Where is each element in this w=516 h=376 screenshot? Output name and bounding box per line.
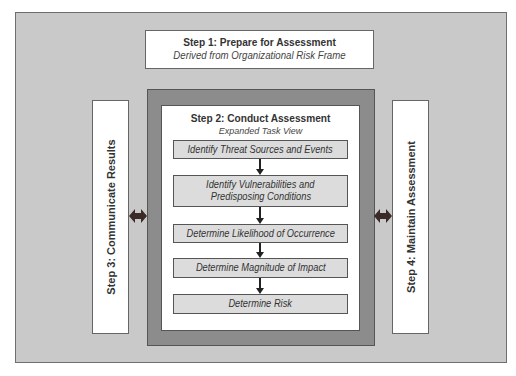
task-label: Determine Magnitude of Impact [196,262,326,274]
task-identify-threats: Identify Threat Sources and Events [173,140,348,159]
task-label-line2: Predisposing Conditions [210,191,310,203]
task-determine-likelihood: Determine Likelihood of Occurrence [173,224,348,243]
step1-box: Step 1: Prepare for Assessment Derived f… [145,30,374,69]
step2-subtitle: Expanded Task View [162,126,359,136]
task-determine-risk: Determine Risk [173,294,348,314]
step4-title: Step 4: Maintain Assessment [405,141,417,293]
step2-title: Step 2: Conduct Assessment [170,112,351,124]
task-label: Determine Risk [229,298,293,310]
step1-title: Step 1: Prepare for Assessment [155,36,364,48]
step3-box: Step 3: Communicate Results [92,100,129,334]
task-label: Determine Likelihood of Occurrence [186,228,334,240]
double-arrow-icon [129,209,147,223]
double-arrow-icon [374,209,392,223]
task-determine-impact: Determine Magnitude of Impact [173,258,348,278]
step1-subtitle: Derived from Organizational Risk Frame [155,49,364,61]
task-label: Identify Threat Sources and Events [188,144,333,156]
step3-title: Step 3: Communicate Results [105,139,117,294]
task-identify-vulnerabilities: Identify Vulnerabilities and Predisposin… [173,175,348,207]
step4-box: Step 4: Maintain Assessment [392,100,429,334]
task-label-line1: Identify Vulnerabilities and [206,179,314,191]
